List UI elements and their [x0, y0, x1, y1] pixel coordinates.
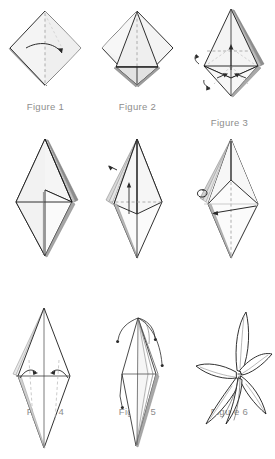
figure-1-caption: Figure 1 [0, 101, 91, 112]
figure-cell-5: Figure 5 [92, 134, 183, 264]
figure-cell-8 [92, 300, 183, 455]
figure-6-illustration [184, 134, 275, 264]
figure-cell-1: Figure 1 [0, 4, 91, 92]
figure-4-illustration [0, 134, 91, 264]
figure-5-illustration [92, 134, 183, 264]
figure-7-illustration [0, 300, 91, 455]
figure-9-illustration [184, 300, 275, 455]
figure-cell-6: Figure 6 [184, 134, 275, 264]
figure-cell-7 [0, 300, 91, 455]
figure-cell-2: Figure 2 [92, 4, 183, 92]
figure-cell-3: Figure 3 [184, 4, 275, 108]
figure-8-illustration [92, 300, 183, 455]
figure-cell-9 [184, 300, 275, 455]
figure-2-illustration [92, 4, 183, 92]
origami-instruction-sheet: Figure 1 [0, 0, 275, 459]
figure-cell-4: Figure 4 [0, 134, 91, 264]
figure-3-illustration [184, 4, 275, 108]
figure-3-caption: Figure 3 [184, 117, 275, 128]
figure-1-illustration [0, 4, 91, 92]
figure-2-caption: Figure 2 [92, 101, 183, 112]
